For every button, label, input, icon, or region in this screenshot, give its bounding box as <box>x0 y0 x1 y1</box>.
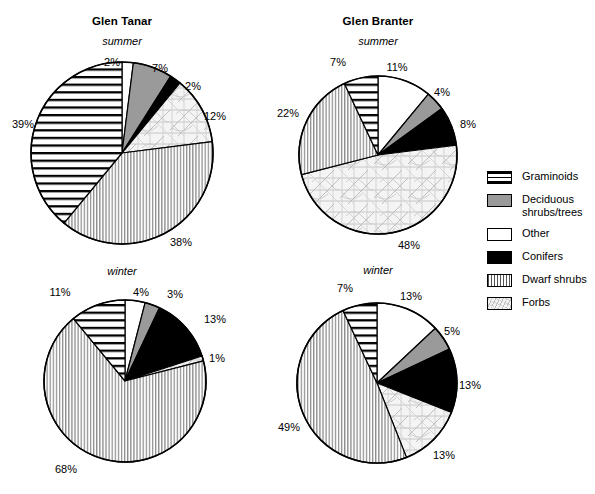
pie-percent-label: 4% <box>133 287 149 298</box>
legend-swatch-dwarf-icon <box>487 274 512 287</box>
pie-percent-label: 2% <box>104 57 120 68</box>
panel-title-glen-tanar: Glen Tanar <box>92 15 152 27</box>
legend-item-deciduous: Deciduous shrubs/trees <box>487 193 587 218</box>
pie-percent-label: 7% <box>152 63 168 74</box>
legend-label: Graminoids <box>522 170 578 183</box>
pie-glen-branter-winter <box>297 303 457 463</box>
pie-percent-label: 1% <box>209 353 225 364</box>
season-label-branter-winter: winter <box>363 264 392 276</box>
legend-item-forbs: Forbs <box>487 296 587 310</box>
legend-label: Conifers <box>522 250 563 263</box>
legend-label: Dwarf shrubs <box>522 273 587 286</box>
pie-percent-label: 7% <box>330 57 346 68</box>
pie-percent-label: 39% <box>12 119 34 130</box>
legend-label: Forbs <box>522 296 550 309</box>
panel-title-glen-branter: Glen Branter <box>343 15 414 27</box>
pie-percent-label: 48% <box>398 240 420 251</box>
season-label-tanar-summer: summer <box>102 35 142 47</box>
pie-percent-label: 8% <box>460 119 476 130</box>
legend-item-conifers: Conifers <box>487 250 587 264</box>
pie-percent-label: 13% <box>400 291 422 302</box>
legend-item-other: Other <box>487 227 587 241</box>
pie-percent-label: 5% <box>444 326 460 337</box>
legend: GraminoidsDeciduous shrubs/treesOtherCon… <box>487 170 587 319</box>
pie-percent-label: 49% <box>278 422 300 433</box>
legend-swatch-deciduous-icon <box>487 194 512 207</box>
legend-swatch-forbs-icon <box>487 297 512 310</box>
pie-percent-label: 4% <box>434 87 450 98</box>
pie-percent-label: 38% <box>170 237 192 248</box>
season-label-branter-summer: summer <box>358 35 398 47</box>
pie-percent-label: 3% <box>167 289 183 300</box>
pie-glen-branter-summer <box>299 76 457 234</box>
pie-percent-label: 12% <box>204 111 226 122</box>
pie-glen-tanar-winter <box>44 300 206 462</box>
pie-percent-label: 68% <box>55 464 77 475</box>
pie-percent-label: 13% <box>433 450 455 461</box>
pie-percent-label: 11% <box>49 287 70 298</box>
legend-item-dwarf: Dwarf shrubs <box>487 273 587 287</box>
legend-swatch-conifers-icon <box>487 251 512 264</box>
pie-percent-label: 11% <box>386 62 407 73</box>
legend-swatch-graminoids-icon <box>487 171 512 184</box>
legend-label: Other <box>522 227 550 240</box>
pie-percent-label: 2% <box>185 81 201 92</box>
pie-percent-label: 13% <box>459 380 481 391</box>
pie-percent-label: 7% <box>337 283 353 294</box>
pie-percent-label: 13% <box>204 314 226 325</box>
legend-swatch-other-icon <box>487 228 512 241</box>
legend-label: Deciduous shrubs/trees <box>522 193 583 218</box>
legend-item-graminoids: Graminoids <box>487 170 587 184</box>
figure-canvas: Glen Tanar Glen Branter summer summer wi… <box>0 0 595 494</box>
season-label-tanar-winter: winter <box>107 265 136 277</box>
pie-percent-label: 22% <box>277 108 299 119</box>
